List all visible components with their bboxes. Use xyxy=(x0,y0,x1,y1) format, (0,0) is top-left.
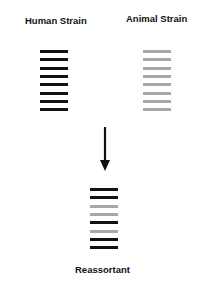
reassortant-segments xyxy=(90,188,118,250)
human-segment xyxy=(90,196,118,199)
human-segment xyxy=(90,246,118,249)
animal-segment xyxy=(143,58,171,61)
animal-strain-segments xyxy=(143,50,171,112)
animal-segment xyxy=(143,50,171,53)
animal-segment xyxy=(143,108,171,111)
animal-segment xyxy=(143,67,171,70)
human-segment xyxy=(90,238,118,241)
animal-strain-label: Animal Strain xyxy=(126,13,187,24)
human-segment xyxy=(40,75,68,78)
human-segment xyxy=(90,188,118,191)
human-segment xyxy=(40,67,68,70)
human-segment xyxy=(40,50,68,53)
animal-segment xyxy=(143,83,171,86)
human-segment xyxy=(40,92,68,95)
human-segment xyxy=(40,83,68,86)
animal-segment xyxy=(90,230,118,233)
reassortant-label: Reassortant xyxy=(75,264,130,275)
animal-segment xyxy=(90,205,118,208)
human-strain-label: Human Strain xyxy=(25,15,87,26)
animal-segment xyxy=(143,100,171,103)
human-segment xyxy=(40,58,68,61)
animal-segment xyxy=(143,92,171,95)
human-strain-segments xyxy=(40,50,68,112)
animal-segment xyxy=(143,75,171,78)
down-arrow-icon xyxy=(98,126,112,172)
human-segment xyxy=(40,100,68,103)
human-segment xyxy=(90,221,118,224)
human-segment xyxy=(40,108,68,111)
animal-segment xyxy=(90,213,118,216)
